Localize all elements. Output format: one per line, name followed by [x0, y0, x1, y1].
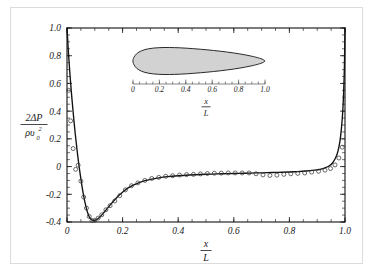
inset-x-tick-label: 0	[131, 85, 135, 94]
figure-container: 00.20.40.60.81.0 -0.4-0.200.20.40.60.81.…	[0, 0, 373, 274]
x-tick-label: 1.0	[339, 226, 351, 236]
data-point-marker	[275, 173, 279, 177]
inset-x-tick-labels: 00.20.40.60.81.0	[131, 85, 270, 94]
x-axis-title-denominator: L	[202, 252, 209, 263]
body-profile-shape-group	[133, 47, 265, 74]
inset-x-axis-title-denominator: L	[203, 109, 209, 118]
y-tick-label: 0.2	[49, 134, 61, 144]
data-point-marker	[74, 167, 78, 171]
y-axis-title-denominator-group: ρυ 2 0	[24, 125, 42, 141]
inset-x-tick-label: 0.2	[155, 85, 165, 94]
data-point-marker	[268, 173, 272, 177]
y-axis-title-denominator-superscript: 2	[38, 125, 42, 132]
inset-x-axis-title-numerator: x	[203, 97, 208, 106]
data-point-marker	[261, 173, 265, 177]
x-axis-tick-labels: 00.20.40.60.81.0	[65, 226, 352, 236]
x-tick-label: 0.8	[283, 226, 295, 236]
data-point-marker	[71, 147, 75, 151]
body-profile-inset: 00.20.40.60.81.0 x L	[131, 47, 270, 118]
inset-x-tick-label: 1.0	[260, 85, 270, 94]
inset-axis-ticks	[133, 80, 265, 84]
data-point-marker	[323, 168, 327, 172]
y-axis-title-denominator: ρυ	[24, 127, 35, 138]
x-tick-label: 0.2	[117, 226, 129, 236]
x-axis-title: x L	[201, 238, 212, 263]
y-tick-label: -0.4	[46, 217, 61, 227]
y-tick-label: 1.0	[49, 23, 61, 33]
y-axis-title: 2ΔP ρυ 2 0	[21, 112, 48, 141]
y-tick-label: 0.8	[49, 51, 61, 61]
y-axis-title-numerator: 2ΔP	[26, 112, 43, 123]
y-tick-label: 0.4	[49, 107, 61, 117]
y-tick-label: 0.6	[49, 79, 61, 89]
inset-x-axis-title: x L	[202, 97, 211, 118]
inset-x-tick-label: 0.4	[181, 85, 191, 94]
pressure-distribution-chart: 00.20.40.60.81.0 -0.4-0.200.20.40.60.81.…	[0, 0, 373, 274]
body-profile-shape	[133, 47, 265, 74]
y-tick-label: -0.2	[46, 190, 61, 200]
data-point-marker	[69, 119, 73, 123]
data-point-marker	[337, 156, 341, 160]
y-tick-label: 0	[56, 162, 61, 172]
x-tick-label: 0.4	[172, 226, 184, 236]
inset-x-tick-label: 0.8	[234, 85, 244, 94]
data-point-marker	[329, 167, 333, 171]
x-tick-label: 0.6	[228, 226, 240, 236]
data-point-marker	[333, 163, 337, 167]
inset-x-tick-label: 0.6	[207, 85, 217, 94]
data-point-marker	[282, 172, 286, 176]
y-axis-tick-labels: -0.4-0.200.20.40.60.81.0	[46, 23, 61, 227]
x-axis-title-numerator: x	[203, 238, 209, 249]
x-tick-label: 0	[65, 226, 70, 236]
y-axis-title-denominator-subscript: 0	[36, 134, 40, 141]
